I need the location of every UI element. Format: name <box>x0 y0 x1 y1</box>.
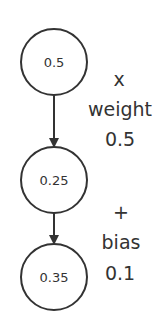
operation-weight: x weight 0.5 <box>88 68 152 150</box>
weight-label: weight <box>88 98 152 120</box>
neuron-computation-diagram: 0.5 0.25 0.35 x weight 0.5 + bias 0.1 <box>0 0 162 333</box>
node-input: 0.5 <box>21 29 87 95</box>
weight-value: 0.5 <box>105 128 135 150</box>
multiply-symbol: x <box>113 68 124 90</box>
node-output: 0.35 <box>21 244 87 310</box>
node-output-value: 0.35 <box>40 270 69 285</box>
bias-value: 0.1 <box>105 262 135 284</box>
add-symbol: + <box>113 201 129 223</box>
node-weighted-value: 0.25 <box>40 173 69 188</box>
node-weighted: 0.25 <box>21 147 87 213</box>
node-input-value: 0.5 <box>44 55 65 70</box>
operation-bias: + bias 0.1 <box>102 201 141 284</box>
bias-label: bias <box>102 231 141 253</box>
